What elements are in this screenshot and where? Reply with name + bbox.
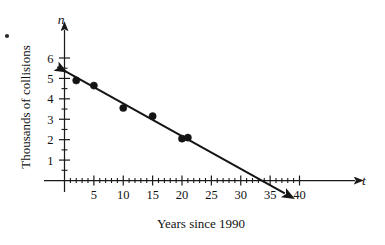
x-tick-label: 40 — [293, 188, 306, 202]
x-tick-label: 5 — [91, 188, 97, 202]
x-tick-label: 25 — [205, 188, 218, 202]
x-tick-label: 10 — [117, 188, 130, 202]
y-tick-label: 1 — [47, 154, 53, 168]
x-tick-label: 35 — [264, 188, 277, 202]
axis-group — [44, 30, 355, 192]
x-tick-label: 20 — [176, 188, 189, 202]
x-axis-variable-label: t — [362, 173, 367, 188]
y-axis-tick-labels: 123456 — [47, 52, 54, 168]
corner-bullet-mark — [5, 34, 9, 38]
x-tick-label: 30 — [235, 188, 248, 202]
x-axis-title: Years since 1990 — [157, 216, 245, 231]
data-point — [184, 134, 191, 141]
y-axis-variable-label: n — [58, 12, 65, 27]
y-tick-label: 4 — [47, 92, 54, 106]
data-point — [90, 82, 97, 89]
data-point — [73, 77, 80, 84]
data-point — [120, 104, 127, 111]
y-tick-label: 6 — [47, 52, 53, 66]
y-tick-label: 2 — [47, 133, 53, 147]
data-point — [149, 113, 156, 120]
y-tick-label: 5 — [47, 72, 53, 86]
x-axis-tick-labels: 510152025303540 — [91, 188, 306, 202]
scatter-plot-figure: 510152025303540 123456 t n Years since 1… — [0, 0, 385, 245]
y-axis-title: Thousands of collisions — [18, 45, 33, 169]
plot-canvas: 510152025303540 123456 t n Years since 1… — [0, 0, 385, 245]
y-tick-label: 3 — [47, 113, 53, 127]
x-tick-label: 15 — [146, 188, 159, 202]
